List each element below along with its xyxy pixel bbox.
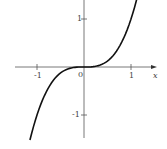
x-axis-label: x — [153, 71, 158, 80]
y-tick-label-neg1: -1 — [72, 110, 80, 119]
x-axis-arrow-icon — [151, 65, 157, 69]
x-tick-label-neg1: -1 — [34, 71, 42, 80]
plot: -1 1 1 -1 0 x — [0, 0, 167, 149]
y-tick-label-1: 1 — [77, 14, 82, 23]
x-tick-label-1: 1 — [129, 71, 134, 80]
origin-label: 0 — [78, 70, 83, 79]
